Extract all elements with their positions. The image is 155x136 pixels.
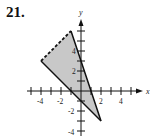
x-axis-label: x	[145, 87, 150, 96]
x-tick-label: 2	[99, 97, 103, 106]
x-tick-label: -2	[57, 97, 63, 106]
y-tick-label: 2	[72, 67, 76, 76]
y-tick-label: 4	[72, 47, 76, 56]
coordinate-plane: -4 -2 2 4 x 4 2 -2 -4 y	[0, 0, 155, 136]
y-axis-label: y	[78, 8, 83, 17]
x-tick-label: -4	[37, 97, 43, 106]
x-tick-label: 4	[119, 97, 123, 106]
y-tick-label: -4	[68, 128, 74, 136]
y-tick-label: -2	[68, 107, 74, 116]
